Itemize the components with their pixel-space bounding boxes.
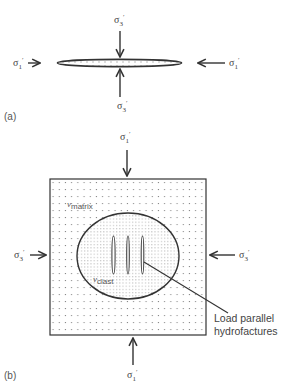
stress-label-bottom-a: σ3′ bbox=[117, 99, 128, 114]
stress-label-top-a: σ3′ bbox=[114, 13, 125, 28]
panel-label-a: (a) bbox=[4, 111, 16, 122]
panel-b: νmatrix νclast Load parallel hydrofactur… bbox=[4, 130, 278, 383]
panel-label-b: (b) bbox=[4, 370, 16, 381]
fracture-2 bbox=[127, 236, 130, 274]
stress-label-bottom-b: σ1′ bbox=[127, 368, 138, 383]
hydrofracture-stress-diagram: σ3′ σ3′ σ1′ σ1′ (a) bbox=[0, 0, 289, 392]
stress-label-right-a: σ1′ bbox=[229, 56, 240, 71]
stress-label-right-b: σ3′ bbox=[239, 248, 250, 263]
stress-label-top-b: σ1′ bbox=[120, 130, 131, 145]
fracture-1 bbox=[112, 236, 115, 274]
panel-a: σ3′ σ3′ σ1′ σ1′ (a) bbox=[4, 13, 240, 122]
stress-label-left-b: σ3′ bbox=[14, 248, 25, 263]
annotation-text: Load parallel hydrofactures bbox=[214, 312, 278, 337]
horizontal-crack bbox=[58, 59, 182, 66]
fracture-3 bbox=[141, 236, 144, 274]
stress-label-left-a: σ1′ bbox=[13, 56, 24, 71]
